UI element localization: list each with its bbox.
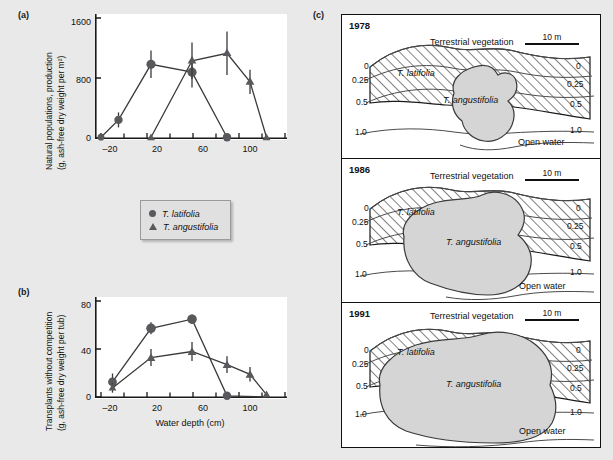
map-1978-scalebar-line [525, 43, 579, 45]
map-1978-latifolia-label: T. latifolia [397, 68, 435, 78]
map-1991-scalebar-label: 10 m [525, 308, 579, 318]
map-1991-scalebar-line [525, 319, 579, 321]
map-1991-angustifolia-label: T. angustifolia [446, 379, 501, 389]
panel-b-tag: (b) [18, 287, 30, 297]
panel-a-ytick-800: 800 [60, 75, 91, 85]
map-1986-depth-0-right: 0 [576, 203, 581, 213]
panel-b-xtick-100: 100 [235, 403, 265, 413]
map-1986-depth-025-left: 0.25 [352, 217, 369, 227]
map-1991-depth-10-right: 1.0 [570, 407, 582, 417]
map-1991-latifolia-label: T. latifolia [397, 347, 435, 357]
panel-b-ytick-0: 0 [60, 392, 91, 402]
map-1991-scalebar: 10 m [525, 308, 579, 321]
map-1986-angustifolia-label: T. angustifolia [446, 237, 501, 247]
legend-label-latifolia: T. latifolia [162, 209, 200, 219]
legend-label-angustifolia: T. angustifolia [163, 222, 218, 232]
map-1991-depth-0-left: 0 [364, 345, 369, 355]
panel-a-ytick-0: 0 [60, 133, 91, 143]
map-1978-depth-05-left: 0.5 [356, 97, 368, 107]
map-1986-scalebar: 10 m [525, 168, 579, 181]
legend-item-angustifolia: T. angustifolia [149, 220, 218, 233]
panel-b-ytick-80: 80 [60, 300, 91, 310]
map-1978-scalebar: 10 m [525, 32, 579, 45]
map-1978-depth-0-left: 0 [364, 61, 369, 71]
map-1991: 1991 Terrestrial vegetation T. latifolia… [342, 302, 600, 447]
legend-item-latifolia: T. latifolia [149, 207, 218, 220]
map-1986-open-water-label: Open water [519, 281, 566, 291]
panel-b-ylabel-line2: (g, ash-free dry weight per tub) [56, 315, 66, 431]
map-1978-depth-05-right: 0.5 [570, 99, 582, 109]
map-1978-scalebar-label: 10 m [525, 32, 579, 42]
panel-a-xtick--20: –20 [95, 144, 125, 154]
panel-b-plot-area [95, 297, 287, 399]
panel-a-ylabel-line2: (g, ash-free dry weight per m²) [56, 56, 66, 170]
panel-b-xtick-20: 20 [142, 403, 172, 413]
map-1986-latifolia-label: T. latifolia [397, 207, 435, 217]
map-1986-scalebar-line [525, 179, 579, 181]
map-1978-open-water-label: Open water [518, 137, 565, 147]
map-1978: 1978 Terrestrial vegetation T. latifolia [342, 15, 600, 158]
legend: T. latifolia T. angustifolia [140, 200, 231, 240]
panel-b-ytick-40: 40 [60, 346, 91, 356]
map-1986-depth-10-left: 1.0 [355, 269, 367, 279]
panel-c-tag: (c) [313, 10, 324, 20]
map-1986-year: 1986 [349, 164, 370, 175]
panel-a-plot-bg [95, 14, 287, 140]
map-1991-depth-025-left: 0.25 [352, 359, 369, 369]
map-1978-depth-025-right: 0.25 [567, 79, 584, 89]
panel-b: (b) Transplants without competition (g, … [0, 285, 305, 460]
map-1986-depth-05-right: 0.5 [570, 241, 582, 251]
panel-c-frame: 1978 Terrestrial vegetation T. latifolia [341, 14, 601, 448]
panel-b-y-axis-title: Transplants without competition [44, 312, 54, 431]
map-1978-depth-025-left: 0.25 [352, 75, 369, 85]
map-1991-depth-0-right: 0 [576, 345, 581, 355]
panel-b-x-axis-title: Water depth (cm) [110, 418, 270, 428]
panel-a-tag: (a) [18, 10, 29, 20]
panel-a-y-axis-title: Natural populations, production [44, 52, 54, 170]
map-1991-depth-10-left: 1.0 [355, 409, 367, 419]
map-1986-terrestrial-label: Terrestrial vegetation [430, 171, 514, 181]
panel-a: (a) Natural populations, production (g, … [0, 0, 305, 175]
panel-b-ylabel-line1: Transplants without competition [44, 312, 54, 431]
map-1978-year: 1978 [349, 20, 370, 31]
figure-root: (a) Natural populations, production (g, … [0, 0, 613, 460]
map-1986: 1986 Terrestrial vegetation T. latifolia… [342, 158, 600, 302]
map-1978-angustifolia-label: T. angustifolia [443, 95, 498, 105]
panel-a-xtick-100: 100 [235, 144, 265, 154]
map-1978-depth-10-left: 1.0 [355, 127, 367, 137]
map-1986-depth-025-right: 0.25 [567, 221, 584, 231]
panel-b-xtick-60: 60 [188, 403, 218, 413]
map-1986-depth-0-left: 0 [364, 203, 369, 213]
panel-a-ylabel-line1: Natural populations, production [44, 52, 54, 170]
map-1986-scalebar-label: 10 m [525, 168, 579, 178]
map-1991-open-water-label: Open water [519, 426, 566, 436]
panel-a-plot-area [95, 14, 287, 140]
panel-b-xtick--20: –20 [95, 403, 125, 413]
panel-a-y-axis-title-2: (g, ash-free dry weight per m²) [56, 56, 66, 170]
map-1991-depth-05-left: 0.5 [356, 381, 368, 391]
map-1991-year: 1991 [349, 308, 370, 319]
map-1991-terrestrial-label: Terrestrial vegetation [430, 311, 514, 321]
map-1991-depth-025-right: 0.25 [567, 363, 584, 373]
triangle-marker-icon [149, 223, 157, 230]
panel-b-y-axis-title-2: (g, ash-free dry weight per tub) [56, 315, 66, 431]
panel-a-ytick-1600: 1600 [60, 17, 91, 27]
panel-a-xtick-20: 20 [142, 144, 172, 154]
circle-marker-icon [149, 210, 156, 217]
map-1986-depth-10-right: 1.0 [570, 267, 582, 277]
map-1986-depth-05-left: 0.5 [356, 239, 368, 249]
panel-a-xtick-60: 60 [188, 144, 218, 154]
map-1978-depth-0-right: 0 [576, 61, 581, 71]
map-1978-depth-10-right: 1.0 [570, 125, 582, 135]
map-1978-terrestrial-label: Terrestrial vegetation [430, 37, 514, 47]
map-1991-depth-05-right: 0.5 [570, 383, 582, 393]
